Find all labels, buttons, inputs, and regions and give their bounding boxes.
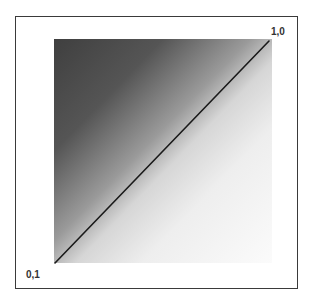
label-top-right: 1,0 — [271, 26, 285, 37]
diagonal-line — [0, 0, 310, 302]
label-bottom-left: 0,1 — [26, 269, 40, 280]
